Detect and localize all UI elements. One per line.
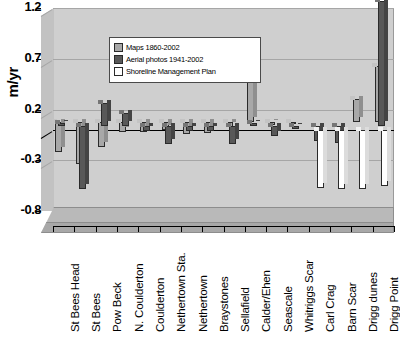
bar-top-face [375,0,380,2]
bar-aerial-photos [250,123,257,126]
bar-side-face [323,127,327,183]
bar-group [266,8,287,211]
x-axis: St Bees HeadSt BeesPow BeckN. Coulderton… [41,226,394,343]
bar-top-face [247,120,252,124]
x-axis-tick-mark [160,226,161,232]
x-axis-label: Nethertown [197,275,209,332]
bar-side-face [192,123,196,126]
bar-aerial-photos [292,126,299,129]
bar-top-face [356,127,361,131]
x-axis-tick-mark [53,226,54,232]
bar-maps [353,99,360,121]
bar-top-face [226,123,231,127]
bar-shoreline-management-plan [338,130,345,189]
legend-swatch-icon [114,43,123,52]
bar-maps [55,122,62,152]
bar-aerial-photos [378,1,385,126]
bar-side-face [274,119,278,120]
bar-shoreline-management-plan [317,130,324,188]
legend-item-label: Shoreline Management Plan [126,67,216,76]
bar-top-face [289,123,294,127]
bar-top-face [372,63,377,67]
x-axis-label: Drigg dunes [367,272,379,332]
y-axis-ticks: 1.20.70.2-0.3-0.8 [0,0,41,343]
x-axis-label: St Bees Head [69,263,81,332]
bar-side-face [387,127,391,181]
bar-side-face [107,100,111,120]
legend: Maps 1860-2002Aerial photos 1941-2002Sho… [109,37,261,83]
bar-top-face [183,123,188,127]
bar-aerial-photos [143,126,150,131]
bar-aerial-photos [79,126,86,189]
x-axis-label: Carl Crag [324,285,336,332]
bar-aerial-photos [101,103,108,125]
legend-item-label: Aerial photos 1941-2002 [126,55,203,64]
x-axis-tick-mark [351,226,352,232]
x-axis-tick-mark [138,226,139,232]
bar-side-face [256,120,260,121]
bar-shoreline-management-plan [381,130,388,186]
bar-side-face [213,123,217,126]
bar-aerial-photos [122,113,129,126]
bar-side-face [128,110,132,121]
y-axis-tick-label: 0.2 [7,101,41,116]
bar-group [287,8,308,211]
x-axis-tick-mark [266,226,267,232]
bar-side-face [365,127,369,184]
bar-side-face [359,96,363,116]
bar-top-face [140,123,145,127]
x-axis-tick-mark [202,226,203,232]
bar-side-face [344,127,348,184]
bar-side-face [149,123,153,126]
x-axis-label: Whitriggs Scar [303,260,315,332]
bar-top-face [335,127,340,131]
bar-aerial-photos [207,126,214,131]
legend-item: Aerial photos 1941-2002 [114,54,256,65]
bar-side-face [235,123,239,139]
x-axis-label: St Bees [90,293,102,332]
bar-top-face [119,110,124,114]
x-axis-label: N. Coulderton [133,264,145,332]
bar-aerial-photos [229,126,236,144]
x-axis-label: Pow Beck [111,282,123,332]
x-axis-label: Calder/Ehen [260,270,272,332]
bar-group [309,8,330,211]
x-axis-tick-mark [181,226,182,232]
x-axis-label: Drigg Point [388,277,400,332]
legend-item-label: Maps 1860-2002 [126,43,180,52]
x-axis-tick-mark [373,226,374,232]
y-axis-tick-label: -0.3 [7,151,41,166]
bar-top-face [314,127,319,131]
bar-side-face [277,123,281,131]
bar-side-face [232,119,236,122]
legend-swatch-icon [114,55,123,64]
legend-item: Maps 1860-2002 [114,42,256,53]
bar-side-face [85,123,89,184]
bar-side-face [384,0,388,121]
x-axis-label: Nethertown Sta. [175,253,187,332]
x-axis-label: Coulderton [154,278,166,332]
bar-side-face [171,123,175,139]
bar-top-face [95,119,100,123]
bar-top-face [116,119,121,123]
y-axis-tick-label: 0.7 [7,50,41,65]
x-axis-label: Barn Scar [346,283,358,332]
bar-aerial-photos [165,126,172,144]
x-axis-label: Braystones [218,276,230,332]
bar-group [74,8,95,211]
bar-top-face [204,123,209,127]
x-axis-tick-mark [224,226,225,232]
bar-top-face [378,127,383,131]
legend-item: Shoreline Management Plan [114,66,256,77]
bar-group [351,8,372,211]
bar-top-face [76,123,81,127]
bar-group [373,8,394,211]
x-axis-tick-mark [330,226,331,232]
y-axis-tick-label: -0.8 [7,202,41,217]
x-axis-tick-mark [74,226,75,232]
bar-aerial-photos [58,123,65,126]
x-axis-tick-mark [245,226,246,232]
y-axis-tick-label: 1.2 [7,0,41,14]
x-axis-tick-mark [309,226,310,232]
